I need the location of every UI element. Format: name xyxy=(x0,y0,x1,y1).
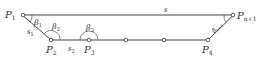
point-p1-marker xyxy=(21,13,25,17)
angle-arc-betan1 xyxy=(224,15,226,22)
label-s1: s1 xyxy=(27,28,34,37)
label-p1: P1 xyxy=(4,9,16,21)
point-b-marker xyxy=(162,38,166,42)
angle-arc-beta1 xyxy=(30,15,32,22)
point-p3-marker xyxy=(87,38,91,42)
label-beta2: β2 xyxy=(51,22,60,32)
label-s: s xyxy=(164,6,168,14)
label-betan1: βn+1 xyxy=(209,21,224,36)
label-beta3: β3 xyxy=(85,23,94,33)
label-p4: P4 xyxy=(201,44,213,56)
point-pn1-marker xyxy=(231,13,235,17)
point-p4-marker xyxy=(206,38,210,42)
label-beta1: β1 xyxy=(33,18,42,28)
label-p3: P3 xyxy=(83,44,95,56)
label-pn1: Pn+1 xyxy=(236,10,256,22)
label-s2: s2 xyxy=(68,45,75,54)
traverse-diagram: P1 P2 P3 P4 Pn+1 s s1 s2 β1 β2 β3 βn+1 xyxy=(0,0,268,66)
point-a-marker xyxy=(124,38,128,42)
label-p2: P2 xyxy=(45,44,57,56)
point-p2-marker xyxy=(49,38,53,42)
